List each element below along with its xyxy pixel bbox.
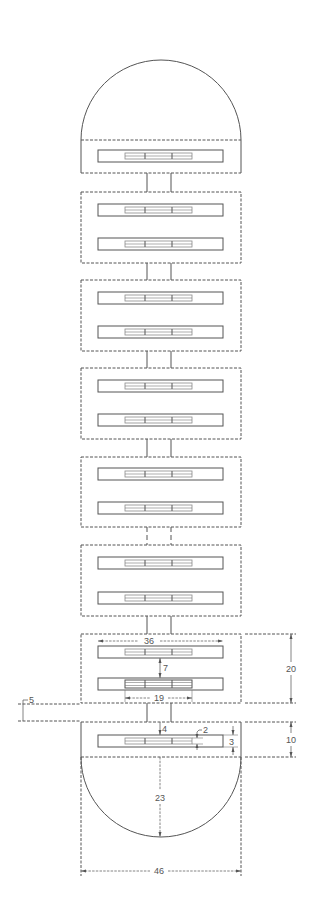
dim-label-2: 2	[203, 725, 208, 735]
connector	[147, 351, 171, 368]
connector	[147, 439, 171, 457]
dim-label-5: 5	[29, 695, 34, 705]
bar	[98, 735, 223, 747]
bar	[98, 502, 223, 514]
module-3	[81, 280, 241, 351]
bar	[98, 292, 223, 304]
dim-label-10: 10	[286, 735, 296, 745]
dimension-bar-length: 36	[98, 636, 223, 646]
bar	[98, 238, 223, 250]
module-6	[81, 545, 241, 616]
bar	[98, 380, 223, 392]
module-4	[81, 368, 241, 439]
dimension-overall-width: 46	[81, 757, 241, 876]
dim-label-7: 7	[163, 663, 168, 673]
technical-drawing: 36 7 19 20	[0, 0, 314, 907]
module-2	[81, 192, 241, 263]
bar	[98, 414, 223, 426]
bar	[98, 557, 223, 569]
dim-label-23: 23	[155, 793, 165, 803]
module-7: 36 7 19	[81, 634, 241, 703]
module-5	[81, 457, 241, 527]
dimension-connector-offset: 4	[159, 722, 168, 735]
bar	[98, 468, 223, 480]
dimension-strip-length: 19	[125, 690, 192, 703]
connector	[147, 703, 171, 722]
bar	[98, 678, 223, 690]
dimension-bar-spacing: 7	[159, 658, 169, 678]
module-1	[81, 140, 241, 173]
dim-label-46: 46	[154, 866, 164, 876]
connector-hidden	[147, 527, 171, 545]
dimension-module-height: 20	[245, 634, 296, 703]
connector	[147, 616, 171, 634]
dim-label-36: 36	[144, 636, 154, 646]
dim-label-20: 20	[286, 664, 296, 674]
module-8: 4 2 3	[81, 722, 241, 757]
dimension-strip-thickness: 2	[192, 725, 208, 750]
bar	[98, 646, 223, 658]
dim-label-19: 19	[154, 693, 164, 703]
bar	[98, 150, 223, 162]
dimension-gap: 5	[18, 695, 81, 721]
dimension-dome-radius: 23	[155, 757, 165, 837]
dimension-end-module-height: 10	[245, 722, 296, 757]
connector	[147, 263, 171, 280]
dimension-bar-height: 3	[223, 726, 238, 755]
top-dome	[81, 60, 241, 140]
bar	[98, 592, 223, 604]
bar	[98, 326, 223, 338]
dim-label-4: 4	[162, 724, 167, 734]
bar	[98, 204, 223, 216]
dim-label-3: 3	[229, 737, 234, 747]
connector	[147, 173, 171, 192]
